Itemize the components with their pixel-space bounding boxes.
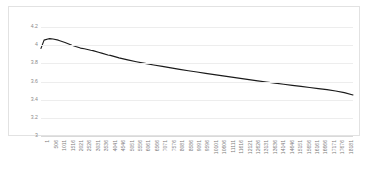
x-axis-tick-label: 10101 bbox=[214, 140, 219, 154]
x-axis-tick-label: 12121 bbox=[248, 140, 253, 154]
x-axis-tick-label: 15151 bbox=[298, 140, 303, 154]
x-axis-tick-label: 13131 bbox=[264, 140, 269, 154]
x-axis-tick-label: 5051 bbox=[130, 140, 135, 151]
y-axis-tick-label: 3 bbox=[35, 133, 38, 138]
x-axis-tick-label: 16161 bbox=[315, 140, 320, 154]
plot-area: 33.23.43.63.844.2 bbox=[41, 27, 353, 136]
x-axis-tick-label: 4546 bbox=[121, 140, 126, 151]
y-axis-tick-label: 4.2 bbox=[31, 24, 38, 29]
x-axis-tick-label: 7071 bbox=[163, 140, 168, 151]
gridline bbox=[41, 118, 353, 119]
x-axis-tick-label: 2021 bbox=[79, 140, 84, 151]
x-axis-tick-label: 6061 bbox=[146, 140, 151, 151]
x-axis-tick-label: 8586 bbox=[189, 140, 194, 151]
x-axis-tick-label: 16666 bbox=[323, 140, 328, 154]
x-axis-tick-label: 13636 bbox=[273, 140, 278, 154]
x-axis-tick-label: 1 bbox=[45, 140, 50, 143]
gridline bbox=[41, 45, 353, 46]
y-axis-tick-label: 3.4 bbox=[31, 97, 38, 102]
gridline bbox=[41, 82, 353, 83]
x-axis-tick-label: 12626 bbox=[256, 140, 261, 154]
x-axis-tick-label: 1011 bbox=[62, 140, 67, 151]
x-axis-tick-label: 7576 bbox=[172, 140, 177, 151]
x-axis-tick-label: 11111 bbox=[231, 140, 236, 153]
x-axis-tick-label: 14646 bbox=[290, 140, 295, 154]
x-axis-tick-label: 18181 bbox=[349, 140, 354, 154]
x-axis-tick-label: 10606 bbox=[222, 140, 227, 154]
x-axis-tick-label: 3031 bbox=[96, 140, 101, 151]
gridline bbox=[41, 27, 353, 28]
y-axis-tick-label: 3.6 bbox=[31, 79, 38, 84]
x-axis-tick-label: 4041 bbox=[113, 140, 118, 151]
y-axis-tick-label: 3.8 bbox=[31, 61, 38, 66]
x-axis-tick-label: 17171 bbox=[332, 140, 337, 154]
x-axis-tick-label: 3536 bbox=[104, 140, 109, 151]
y-axis-tick-label: 4 bbox=[35, 43, 38, 48]
x-axis-labels: 1506101115162021252630313536404145465051… bbox=[41, 138, 353, 178]
gridline bbox=[41, 63, 353, 64]
chart-container: 33.23.43.63.844.2 1506101115162021252630… bbox=[8, 6, 360, 136]
y-axis-tick-label: 3.2 bbox=[31, 115, 38, 120]
x-axis-tick-label: 15656 bbox=[307, 140, 312, 154]
x-axis-tick-label: 2526 bbox=[87, 140, 92, 151]
gridline bbox=[41, 100, 353, 101]
x-axis-tick-label: 11616 bbox=[239, 140, 244, 154]
x-axis-tick-label: 17676 bbox=[340, 140, 345, 154]
x-axis-tick-label: 9091 bbox=[197, 140, 202, 151]
x-axis-tick-label: 1516 bbox=[71, 140, 76, 151]
x-axis-tick-label: 506 bbox=[54, 140, 59, 149]
x-axis-tick-label: 5556 bbox=[138, 140, 143, 151]
x-axis-line bbox=[41, 136, 353, 137]
x-axis-tick-label: 6566 bbox=[155, 140, 160, 151]
x-axis-tick-label: 8081 bbox=[180, 140, 185, 151]
x-axis-tick-label: 14141 bbox=[281, 140, 286, 154]
x-axis-tick-label: 9596 bbox=[205, 140, 210, 151]
